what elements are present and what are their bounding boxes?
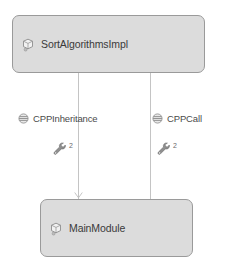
module-icon [49,221,64,236]
relation-icon [152,113,163,124]
edge-count: 2 [69,142,73,149]
edge-detail-cpp-inheritance[interactable]: 2 [52,141,73,157]
node-label: SortAlgorithmsImpl [41,38,128,50]
edge-count: 2 [173,142,177,149]
edge-cpp-call[interactable] [150,73,151,199]
edge-label-text: CPPCall [167,113,202,124]
edge-detail-cpp-call[interactable]: 2 [156,141,177,157]
edge-cpp-inheritance[interactable] [78,73,79,199]
node-label: MainModule [69,222,125,234]
node-sort-algorithms-impl[interactable]: SortAlgorithmsImpl [12,15,205,73]
edge-label-cpp-inheritance[interactable]: CPPInheritance [18,113,97,124]
edge-label-cpp-call[interactable]: CPPCall [152,113,202,124]
module-icon [21,37,36,52]
arrowhead-icon [74,192,83,199]
edge-label-text: CPPInheritance [33,113,97,124]
wrench-icon [156,141,172,157]
node-main-module[interactable]: MainModule [40,199,193,257]
relation-icon [18,113,29,124]
wrench-icon [52,141,68,157]
diagram-canvas: SortAlgorithmsImpl CPPInheritance CPPCal… [0,0,233,274]
node-content: MainModule [49,221,125,236]
node-content: SortAlgorithmsImpl [21,37,128,52]
